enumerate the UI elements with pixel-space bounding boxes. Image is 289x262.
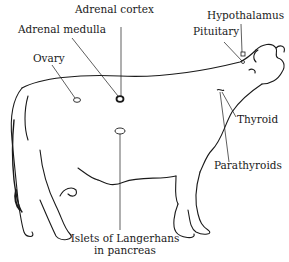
thyroid-marker	[217, 89, 224, 90]
label-ovary: Ovary	[33, 52, 65, 64]
label-adrenal-cortex: Adrenal cortex	[75, 3, 154, 15]
cow-outline-drawing	[0, 0, 289, 262]
label-parathyroids: Parathyroids	[214, 159, 282, 171]
label-hypothalamus: Hypothalamus	[207, 9, 284, 21]
label-islets-line2: in pancreas	[70, 244, 180, 256]
ovary-marker	[74, 98, 81, 103]
label-pituitary: Pituitary	[193, 25, 239, 37]
label-adrenal-medulla: Adrenal medulla	[18, 23, 106, 35]
adrenal-marker	[117, 96, 124, 102]
label-islets-line1: Islets of Langerhans	[70, 232, 180, 244]
hypothalamus-marker	[241, 52, 245, 56]
label-islets-of-langerhans: Islets of Langerhans in pancreas	[70, 232, 180, 256]
cow-endocrine-diagram: Adrenal cortex Adrenal medulla Ovary Hyp…	[0, 0, 289, 262]
label-thyroid: Thyroid	[237, 113, 278, 125]
pancreas-marker	[115, 128, 125, 134]
